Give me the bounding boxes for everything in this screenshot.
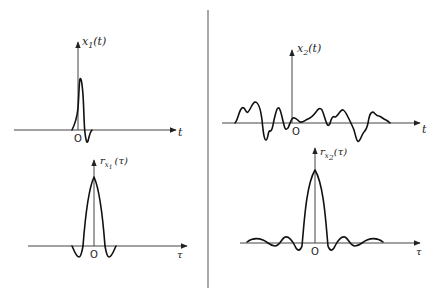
figure: x1(t) t O rx1(τ) τ O x2(t) t O rx2(τ) τ … bbox=[0, 0, 437, 297]
x1-y-label: x1(t) bbox=[82, 35, 106, 50]
x2-y-label: x2(t) bbox=[297, 42, 321, 57]
rx2-y-label: rx2(τ) bbox=[320, 146, 347, 162]
panel-x2: x2(t) t O bbox=[222, 42, 427, 141]
rx2-origin-label: O bbox=[311, 246, 319, 257]
x2-x-label: t bbox=[422, 123, 427, 136]
panel-x1: x1(t) t O bbox=[14, 35, 183, 144]
rx1-x-label: τ bbox=[177, 249, 183, 260]
x2-origin-label: O bbox=[292, 126, 300, 137]
rx1-origin-label: O bbox=[90, 249, 98, 260]
rx2-x-label: τ bbox=[416, 246, 422, 257]
x1-x-label: t bbox=[178, 126, 183, 139]
x2-random-signal-curve bbox=[235, 102, 390, 141]
x1-origin-label: O bbox=[74, 133, 82, 144]
panel-rx1: rx1(τ) τ O bbox=[28, 155, 187, 260]
panel-rx2: rx2(τ) τ O bbox=[240, 146, 422, 257]
rx1-y-label: rx1(τ) bbox=[100, 155, 128, 170]
